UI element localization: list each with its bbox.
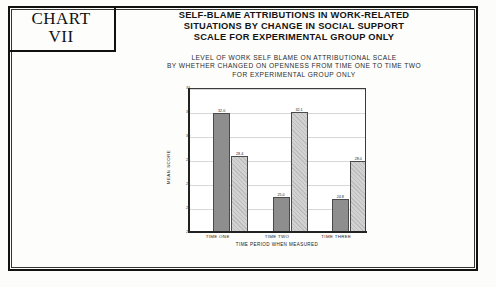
x-tick-label: TIME TWO <box>265 234 290 239</box>
bar-series-layer: 32.028.425.032.124.828.0 <box>201 89 366 232</box>
x-axis-line <box>188 231 367 233</box>
title-line-1: SELF-BLAME ATTRIBUTIONS IN WORK-RELATED <box>120 10 468 21</box>
bar: 25.0 <box>273 197 290 232</box>
x-axis-label: TIME PERIOD WHEN MEASURED <box>236 242 318 247</box>
bar-value-label: 25.0 <box>277 193 284 197</box>
x-tick-label: TIME THREE <box>321 234 351 239</box>
chart-number-line1: CHART <box>31 10 90 28</box>
bar: 32.1 <box>291 112 308 232</box>
subtitle-line-3: FOR EXPERIMENTAL GROUP ONLY <box>118 71 470 79</box>
bar-value-label: 32.1 <box>295 108 302 112</box>
bar: 28.4 <box>231 156 248 232</box>
chart-number-line2: VII <box>48 28 73 46</box>
title-line-3: SCALE FOR EXPERIMENTAL GROUP ONLY <box>120 32 468 43</box>
subtitle-line-1: LEVEL OF WORK SELF BLAME ON ATTRIBUTIONA… <box>118 54 470 62</box>
title-line-2: SITUATIONS BY CHANGE IN SOCIAL SUPPORT <box>120 21 468 32</box>
x-tick-label: TIME ONE <box>206 234 230 239</box>
bar-value-label: 28.4 <box>236 152 243 156</box>
bar-value-label: 24.8 <box>337 195 344 199</box>
plot-area: 32.028.425.032.124.828.0 Legend NO WORK … <box>188 88 366 232</box>
scanned-page: CHART VII SELF-BLAME ATTRIBUTIONS IN WOR… <box>0 0 496 287</box>
bar-value-label: 28.0 <box>355 157 362 161</box>
bar: 24.8 <box>332 199 349 232</box>
chart-title: SELF-BLAME ATTRIBUTIONS IN WORK-RELATED … <box>120 10 468 44</box>
subtitle-line-2: BY WHETHER CHANGED ON OPENNESS FROM TIME… <box>118 62 470 70</box>
bar: 32.0 <box>213 113 230 232</box>
chart-subtitle: LEVEL OF WORK SELF BLAME ON ATTRIBUTIONA… <box>118 54 470 79</box>
bar-value-label: 32.0 <box>218 109 225 113</box>
y-axis-label: MEAN SCORE <box>166 150 171 185</box>
chart-number-cell: CHART VII <box>8 6 116 52</box>
bar-chart: MEAN SCORE 32.028.425.032.124.828.0 Lege… <box>176 88 366 240</box>
bar: 28.0 <box>350 161 366 232</box>
